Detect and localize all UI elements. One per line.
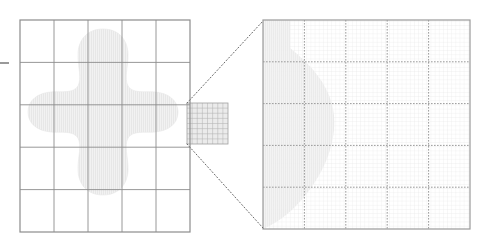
figure-canvas [0, 0, 486, 244]
refined-mesh-panel [263, 20, 470, 229]
zoom-in-mesh-figure [0, 0, 486, 244]
refined-cell [187, 103, 228, 144]
